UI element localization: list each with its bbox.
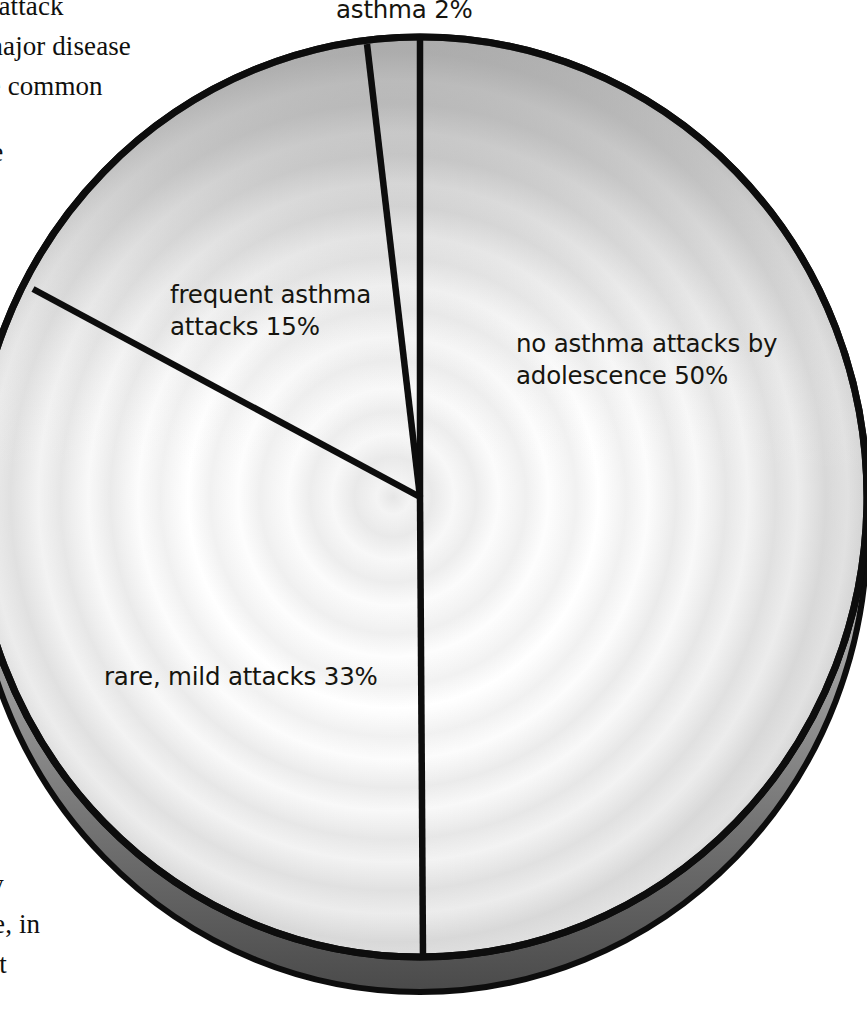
slice-label-frequent-asthma-attacks: frequent asthmaattacks 15%: [170, 279, 371, 343]
page-body-text-bottom: rry me, in out: [0, 864, 40, 984]
divider-rare-end: [420, 497, 423, 957]
slice-label-asthma: asthma 2%: [336, 0, 473, 26]
slice-label-line-1: no asthma attacks by: [516, 329, 777, 358]
slice-label-line-1: frequent asthma: [170, 280, 371, 309]
page-body-text-middle: ere: [0, 132, 3, 172]
slice-label-line-2: adolescence 50%: [516, 361, 728, 390]
pie-chart-canvas: [0, 0, 867, 1036]
pie-face: [0, 37, 867, 957]
page-body-text-top: he attack r major disease ore common: [0, 0, 131, 106]
pie-chart: asthma 2% frequent asthmaattacks 15% no …: [0, 0, 867, 1036]
slice-label-line-2: attacks 15%: [170, 312, 320, 341]
slice-label-no-asthma-attacks: no asthma attacks byadolescence 50%: [516, 328, 777, 392]
slice-label-rare-mild-attacks: rare, mild attacks 33%: [104, 661, 378, 693]
